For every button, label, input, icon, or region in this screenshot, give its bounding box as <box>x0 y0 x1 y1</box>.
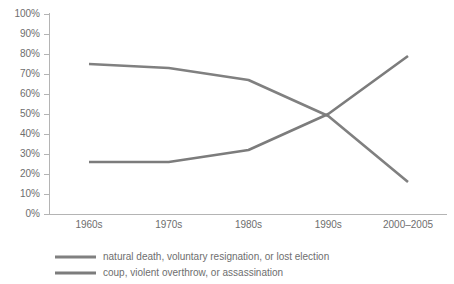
y-tick-label: 100% <box>14 8 40 19</box>
y-tick-label: 40% <box>20 128 40 139</box>
y-tick-label: 30% <box>20 148 40 159</box>
y-tick-labels: 0%10%20%30%40%50%60%70%80%90%100% <box>14 8 40 219</box>
chart-legend: natural death, voluntary resignation, or… <box>55 251 329 278</box>
series-line-2 <box>89 56 408 162</box>
legend-label-2: coup, violent overthrow, or assassinatio… <box>103 267 283 278</box>
y-tick-label: 70% <box>20 68 40 79</box>
x-tick-labels: 1960s1970s1980s1990s2000–2005 <box>75 219 433 230</box>
y-tick-label: 50% <box>20 108 40 119</box>
x-tick-label: 2000–2005 <box>383 219 433 230</box>
x-axis: 1960s1970s1980s1990s2000–2005 <box>50 215 448 231</box>
y-tick-label: 90% <box>20 28 40 39</box>
y-tick-label: 10% <box>20 188 40 199</box>
legend-label-1: natural death, voluntary resignation, or… <box>103 251 329 262</box>
x-tick-label: 1990s <box>315 219 342 230</box>
line-chart-figure: 0%10%20%30%40%50%60%70%80%90%100% 1960s1… <box>0 0 454 284</box>
x-tick-label: 1960s <box>75 219 102 230</box>
y-tick-label: 80% <box>20 48 40 59</box>
y-tick-marks <box>44 15 50 215</box>
series-line-1 <box>89 64 408 182</box>
y-tick-label: 0% <box>26 208 41 219</box>
chart-canvas: 0%10%20%30%40%50%60%70%80%90%100% 1960s1… <box>0 0 454 284</box>
x-tick-label: 1970s <box>155 219 182 230</box>
series-lines <box>89 56 408 182</box>
y-tick-label: 20% <box>20 168 40 179</box>
x-tick-label: 1980s <box>235 219 262 230</box>
y-tick-label: 60% <box>20 88 40 99</box>
y-axis: 0%10%20%30%40%50%60%70%80%90%100% <box>14 8 49 219</box>
